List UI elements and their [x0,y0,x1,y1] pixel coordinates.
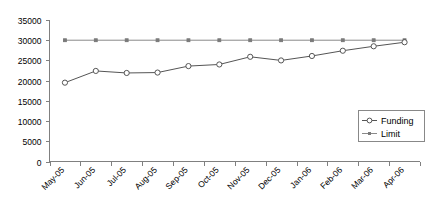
data-point-limit [218,39,221,42]
x-tick-label: Nov-05 [225,165,252,192]
data-point-funding [62,80,67,85]
data-point-funding [155,70,160,75]
x-tick-label: Mar-06 [349,165,375,191]
series-markers-funding [62,40,407,86]
data-point-funding [124,70,129,75]
y-axis-ticks: 05000100001500020000250003000035000 [18,16,50,168]
y-tick-label: 0 [37,158,42,168]
x-axis-ticks [51,162,421,166]
data-point-limit [311,39,314,42]
x-tick-label: Jul-05 [105,165,129,189]
data-point-limit [280,39,283,42]
x-tick-label: Oct-05 [196,165,221,190]
x-tick-label: Apr-06 [381,165,406,190]
legend-marker-limit-icon [368,132,371,135]
legend-label-limit: Limit [381,129,401,139]
x-tick-label: Aug-05 [133,165,160,192]
data-point-limit [372,39,375,42]
x-tick-label: Dec-05 [256,165,283,192]
legend-label-funding: Funding [381,116,414,126]
x-tick-label: Feb-06 [318,165,344,191]
y-tick-label: 30000 [18,36,42,46]
y-tick-label: 10000 [18,117,42,127]
data-point-funding [217,62,222,67]
line-chart: 05000100001500020000250003000035000 May-… [0,0,428,218]
y-tick-label: 25000 [18,56,42,66]
data-point-limit [94,39,97,42]
y-tick-label: 15000 [18,97,42,107]
x-tick-label: Jan-06 [288,165,314,191]
data-point-funding [402,40,407,45]
data-point-limit [125,39,128,42]
y-tick-label: 20000 [18,77,42,87]
y-tick-label: 5000 [23,137,42,147]
data-point-limit [187,39,190,42]
x-axis-labels: May-05Jun-05Jul-05Aug-05Sep-05Oct-05Nov-… [39,165,406,192]
data-point-funding [278,58,283,63]
data-point-funding [186,63,191,68]
data-point-limit [249,39,252,42]
y-tick-label: 35000 [18,16,42,26]
data-point-funding [371,44,376,49]
x-tick-label: May-05 [39,165,66,192]
x-tick-label: Sep-05 [163,165,190,192]
chart-canvas: 05000100001500020000250003000035000 May-… [0,0,428,218]
data-point-funding [93,68,98,73]
data-point-funding [309,53,314,58]
data-point-limit [64,39,67,42]
data-point-limit [156,39,159,42]
chart-legend: Funding Limit [359,111,425,142]
series-line-funding [65,42,405,82]
legend-marker-funding-icon [367,118,372,123]
data-point-funding [248,54,253,59]
data-point-funding [340,48,345,53]
x-tick-label: Jun-05 [72,165,98,191]
data-point-limit [341,39,344,42]
